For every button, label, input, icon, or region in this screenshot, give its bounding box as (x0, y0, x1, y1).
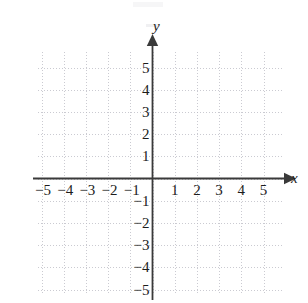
y-tick-label: −3 (134, 238, 150, 253)
x-tick-label: −4 (57, 183, 73, 198)
y-tick-label: −5 (134, 282, 150, 297)
y-tick-label: −4 (134, 260, 150, 275)
y-tick-label: −2 (134, 215, 150, 230)
y-tick-label: 3 (142, 104, 150, 119)
x-tick-label: 1 (171, 183, 179, 198)
x-tick-label: −2 (102, 183, 118, 198)
coordinate-plane-figure: −5−4−3−2−112345 54321−1−2−3−4−5 y x (0, 0, 308, 303)
x-axis-label: x (291, 170, 298, 187)
x-tick-label: 2 (193, 183, 201, 198)
y-tick-label: 1 (142, 149, 150, 164)
x-tick-label: 5 (260, 183, 268, 198)
x-tick-label: 3 (215, 183, 223, 198)
axes-layer (0, 0, 308, 303)
y-tick-label: 4 (142, 82, 150, 97)
x-tick-label: −3 (79, 183, 95, 198)
y-axis-arrowhead (147, 34, 158, 46)
y-axis-label: y (153, 18, 160, 35)
y-tick-label: −1 (134, 193, 150, 208)
y-tick-label: 5 (142, 60, 150, 75)
x-tick-label: −5 (35, 183, 51, 198)
y-tick-label: 2 (142, 127, 150, 142)
x-tick-label: 4 (238, 183, 246, 198)
